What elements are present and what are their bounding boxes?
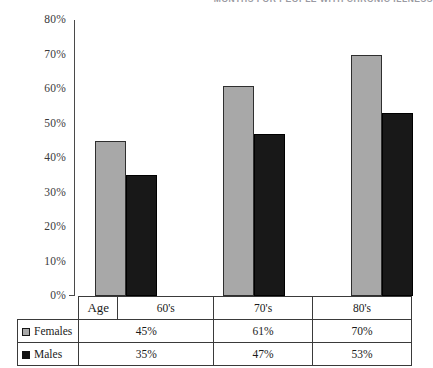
y-axis-tick-50pct: 50% bbox=[18, 118, 66, 129]
gray-square-swatch-icon bbox=[22, 328, 30, 336]
table-row: Females 45% 61% 70% bbox=[18, 320, 412, 343]
value-males-80s: 53% bbox=[313, 343, 412, 366]
legend-row-females: Females bbox=[18, 320, 79, 343]
bar-group-70s bbox=[223, 20, 285, 296]
plot-area bbox=[74, 20, 412, 296]
bar-males-60s bbox=[126, 175, 157, 296]
bar-females-60s bbox=[95, 141, 126, 296]
bar-females-70s bbox=[223, 86, 254, 296]
data-table: Age 60's 70's 80's Females 45% 61% 70% M… bbox=[17, 296, 412, 366]
y-axis-tick-80pct: 80% bbox=[18, 14, 66, 25]
y-axis-tick-70pct: 70% bbox=[18, 49, 66, 60]
chart-title: MONTHS FOR PEOPLE WITH CHRONIC ILLNESS bbox=[183, 0, 433, 3]
value-males-70s: 47% bbox=[214, 343, 313, 366]
series-label-females: Females bbox=[34, 325, 72, 337]
bar-group-60s bbox=[95, 20, 157, 296]
table-header-row: Age 60's 70's 80's bbox=[18, 297, 412, 320]
value-females-80s: 70% bbox=[313, 320, 412, 343]
header-blank-cell bbox=[18, 297, 79, 320]
table-row: Males 35% 47% 53% bbox=[18, 343, 412, 366]
age-header-cell: Age bbox=[79, 297, 118, 320]
bar-males-80s bbox=[382, 113, 413, 296]
legend-row-males: Males bbox=[18, 343, 79, 366]
column-header-70s: 70's bbox=[214, 297, 313, 320]
bar-males-70s bbox=[254, 134, 285, 296]
y-axis-tick-60pct: 60% bbox=[18, 83, 66, 94]
series-label-males: Males bbox=[34, 348, 62, 360]
y-axis-tick-30pct: 30% bbox=[18, 187, 66, 198]
value-females-70s: 61% bbox=[214, 320, 313, 343]
y-axis-tick-10pct: 10% bbox=[18, 256, 66, 267]
y-axis-tick-40pct: 40% bbox=[18, 152, 66, 163]
bar-females-80s bbox=[351, 55, 382, 297]
black-square-swatch-icon bbox=[22, 351, 30, 359]
y-axis-line bbox=[74, 20, 75, 296]
column-header-80s: 80's bbox=[313, 297, 412, 320]
value-males-60s: 35% bbox=[79, 343, 214, 366]
column-header-60s: 60's bbox=[118, 297, 214, 320]
bar-group-80s bbox=[351, 20, 413, 296]
value-females-60s: 45% bbox=[79, 320, 214, 343]
y-axis-tick-20pct: 20% bbox=[18, 221, 66, 232]
